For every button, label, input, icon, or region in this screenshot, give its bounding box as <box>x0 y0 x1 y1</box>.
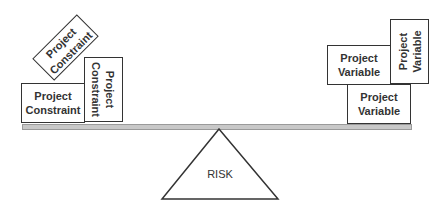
constraint-label: Project Constraint <box>26 89 81 117</box>
constraint-label: Project Constraint <box>90 62 118 117</box>
variable-label: Project Variable <box>358 90 400 118</box>
constraint-box-flat: Project Constraint <box>21 83 85 123</box>
variable-label: Project Variable <box>338 51 380 79</box>
risk-label: RISK <box>200 168 240 180</box>
fulcrum-triangle <box>160 128 282 202</box>
constraint-box-vertical: Project Constraint <box>84 57 123 122</box>
variable-box-top: Project Variable <box>327 45 391 85</box>
variable-label: Project Variable <box>396 30 424 72</box>
variable-box-bottom: Project Variable <box>347 84 411 124</box>
variable-box-vertical: Project Variable <box>390 19 429 84</box>
